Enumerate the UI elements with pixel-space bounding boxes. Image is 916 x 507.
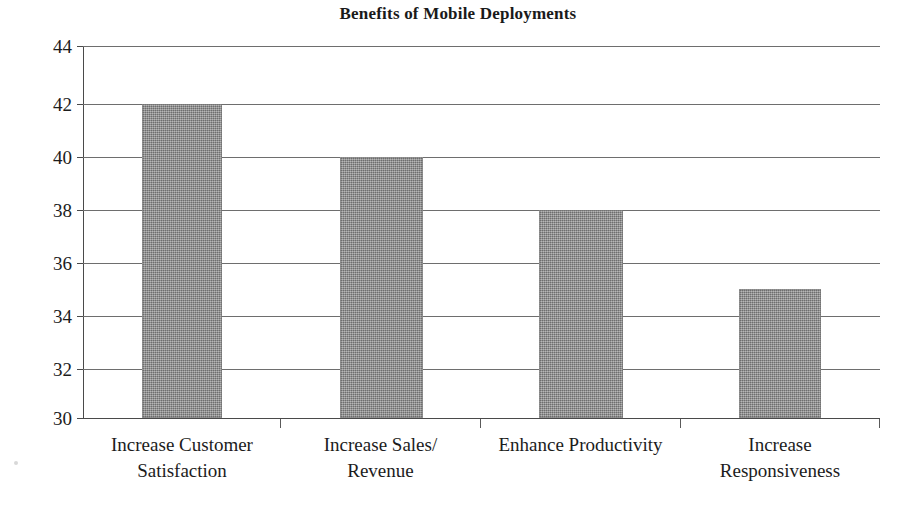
bar-increase-sales-revenue[interactable]	[340, 157, 423, 418]
y-tick-label-30: 30	[24, 409, 72, 428]
y-tick-label-34: 34	[24, 307, 72, 326]
category-label-enhance-productivity: Enhance Productivity	[481, 432, 680, 458]
category-label-increase-customer-satisfaction: Increase Customer Satisfaction	[83, 432, 281, 484]
x-axis-baseline	[83, 418, 880, 419]
y-tick-label-32: 32	[24, 360, 72, 379]
category-label-line-1: Increase Sales/	[324, 434, 437, 455]
category-label-line-2: Revenue	[281, 458, 480, 484]
category-tick-3	[680, 419, 681, 428]
y-tick-label-44: 44	[24, 37, 72, 56]
category-tick-2	[480, 419, 481, 428]
category-label-line-1: Enhance Productivity	[498, 434, 662, 455]
scan-artifact-speck	[14, 461, 18, 465]
y-tick-label-40: 40	[24, 148, 72, 167]
category-tick-1	[280, 419, 281, 428]
y-tick-label-36: 36	[24, 254, 72, 273]
category-label-line-1: Increase	[748, 434, 811, 455]
category-tick-4	[879, 419, 880, 428]
bar-chart-figure: Benefits of Mobile Deployments 44 42 40 …	[0, 0, 916, 507]
y-axis-tick-labels: 44 42 40 38 36 34 32 30	[14, 0, 72, 507]
bar-enhance-productivity[interactable]	[539, 210, 623, 418]
category-label-increase-sales-revenue: Increase Sales/ Revenue	[281, 432, 480, 484]
y-tick-label-38: 38	[24, 201, 72, 220]
category-label-line-1: Increase Customer	[111, 434, 253, 455]
plot-area	[83, 46, 880, 418]
bar-increase-responsiveness[interactable]	[739, 289, 821, 418]
category-label-increase-responsiveness: Increase Responsiveness	[681, 432, 879, 484]
category-label-line-2: Satisfaction	[83, 458, 281, 484]
category-label-line-2: Responsiveness	[681, 458, 879, 484]
y-tick-label-42: 42	[24, 95, 72, 114]
chart-title: Benefits of Mobile Deployments	[0, 4, 916, 24]
gridline-44	[83, 46, 880, 47]
bar-increase-customer-satisfaction[interactable]	[142, 104, 222, 418]
